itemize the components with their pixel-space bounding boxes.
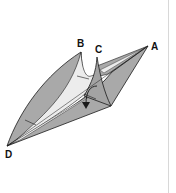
page-edge-divider xyxy=(168,0,169,193)
point-label-c: C xyxy=(95,45,102,55)
origami-figure xyxy=(0,0,176,193)
point-label-d: D xyxy=(5,150,12,160)
point-label-a: A xyxy=(151,42,158,52)
point-label-b: B xyxy=(77,39,84,49)
origami-diagram: B C A D xyxy=(0,0,176,193)
